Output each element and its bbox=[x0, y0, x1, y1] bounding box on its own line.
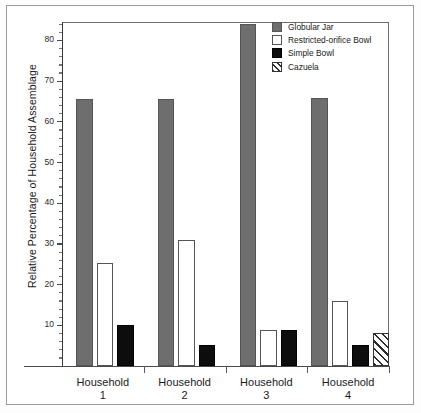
bar bbox=[373, 333, 390, 366]
y-tick-label: 20 bbox=[44, 279, 54, 289]
y-tick-label: 80 bbox=[44, 34, 54, 44]
bar bbox=[260, 330, 277, 366]
y-axis: Relative Percentage of Household Assembl… bbox=[0, 0, 62, 413]
x-axis-separator bbox=[226, 366, 227, 373]
plot-area bbox=[62, 22, 389, 366]
y-tick-label: 10 bbox=[44, 319, 54, 329]
x-axis-group-label: Household2 bbox=[144, 376, 226, 402]
legend-label: Restricted-orifice Bowl bbox=[288, 35, 371, 45]
x-label-text: Household bbox=[240, 376, 293, 388]
legend-item: Globular Jar bbox=[272, 20, 371, 33]
legend-item: Simple Bowl bbox=[272, 47, 371, 60]
bar bbox=[178, 240, 195, 366]
figure: Relative Percentage of Household Assembl… bbox=[0, 0, 421, 413]
y-tick-label: 30 bbox=[44, 238, 54, 248]
bar bbox=[352, 345, 369, 366]
legend-label: Globular Jar bbox=[288, 22, 334, 32]
x-axis-separator bbox=[307, 366, 308, 373]
legend-label: Cazuela bbox=[288, 62, 319, 72]
x-label-number: 2 bbox=[144, 389, 226, 402]
legend-item: Restricted-orifice Bowl bbox=[272, 33, 371, 46]
x-label-number: 3 bbox=[226, 389, 308, 402]
x-label-text: Household bbox=[322, 376, 375, 388]
x-label-text: Household bbox=[158, 376, 211, 388]
bar bbox=[97, 263, 114, 366]
bar bbox=[76, 99, 93, 366]
legend-label: Simple Bowl bbox=[288, 48, 334, 58]
y-tick-label: 40 bbox=[44, 197, 54, 207]
y-tick-label: 60 bbox=[44, 116, 54, 126]
x-axis-line bbox=[24, 366, 389, 367]
bar bbox=[311, 98, 328, 366]
bar bbox=[199, 345, 216, 366]
x-label-number: 4 bbox=[307, 389, 389, 402]
x-label-number: 1 bbox=[62, 389, 144, 402]
legend-swatch bbox=[272, 35, 282, 45]
x-axis-group-label: Household3 bbox=[226, 376, 308, 402]
bar bbox=[332, 301, 349, 366]
y-tick-label: 50 bbox=[44, 157, 54, 167]
legend-item: Cazuela bbox=[272, 60, 371, 73]
x-axis-group-label: Household4 bbox=[307, 376, 389, 402]
legend-swatch bbox=[272, 22, 282, 32]
y-axis-title: Relative Percentage of Household Assembl… bbox=[26, 26, 38, 326]
legend-swatch bbox=[272, 48, 282, 58]
bar bbox=[117, 325, 134, 366]
bar bbox=[281, 330, 298, 366]
x-label-text: Household bbox=[77, 376, 130, 388]
y-tick-label: 70 bbox=[44, 75, 54, 85]
x-axis-separator bbox=[389, 366, 390, 373]
bar bbox=[240, 24, 257, 366]
x-axis-separator bbox=[144, 366, 145, 373]
legend: Globular JarRestricted-orifice BowlSimpl… bbox=[272, 20, 371, 74]
bar bbox=[158, 99, 175, 366]
legend-swatch bbox=[272, 62, 282, 72]
x-axis-group-label: Household1 bbox=[62, 376, 144, 402]
